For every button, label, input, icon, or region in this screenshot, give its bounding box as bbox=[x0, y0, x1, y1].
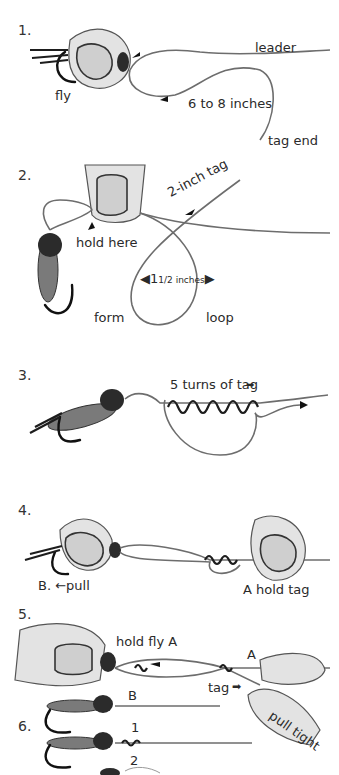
step-number: 2. bbox=[18, 167, 31, 183]
label-hold-here: hold here bbox=[76, 235, 137, 250]
step-number: 6. bbox=[18, 718, 31, 734]
label-a: A bbox=[247, 647, 256, 662]
step-5-illustration bbox=[0, 600, 339, 710]
label-pull: B. ←pull bbox=[38, 578, 90, 593]
step-number: 4. bbox=[18, 502, 31, 518]
label-2: 2 bbox=[130, 753, 138, 768]
step-6-panel: 6. 1 2 bbox=[0, 715, 339, 775]
label-fly: fly bbox=[55, 88, 71, 103]
label-1: 1 bbox=[131, 720, 139, 735]
step-6-illustration bbox=[0, 715, 339, 775]
step-1-panel: 1. fly leader 6 to 8 inches tag end bbox=[0, 0, 339, 150]
label-loop: loop bbox=[206, 310, 234, 325]
step-4-panel: 4. B. ←pull A hold tag bbox=[0, 490, 339, 600]
step-1-illustration bbox=[0, 0, 339, 150]
step-number: 3. bbox=[18, 367, 31, 383]
label-leader: leader bbox=[255, 40, 296, 55]
label-hold-fly: hold fly A bbox=[116, 634, 177, 649]
label-tag-end: tag end bbox=[268, 133, 318, 148]
label-tag: tag bbox=[208, 680, 229, 695]
label-hold-tag: A hold tag bbox=[243, 582, 310, 597]
label-loop-size: ◀11/2 inches▶ bbox=[140, 271, 215, 286]
step-3-illustration bbox=[0, 355, 339, 485]
step-3-panel: 3. 5 turns of tag ➡ bbox=[0, 355, 339, 485]
arrow-right-icon: ➡ bbox=[246, 379, 254, 390]
step-2-panel: 2. hold here 2-inch tag ◀11/2 inches▶ fo… bbox=[0, 155, 339, 355]
arrow-right-icon: ➡ bbox=[232, 680, 241, 693]
step-number: 1. bbox=[18, 22, 31, 38]
step-number: 5. bbox=[18, 606, 31, 622]
label-turns: 5 turns of tag bbox=[170, 377, 258, 392]
label-b: B bbox=[128, 688, 137, 703]
label-length: 6 to 8 inches bbox=[188, 96, 272, 111]
arrow-right-icon: ▶ bbox=[205, 271, 215, 286]
arrow-left-icon: ◀ bbox=[140, 271, 150, 286]
label-form: form bbox=[94, 310, 124, 325]
step-5-panel: 5. hold fly A A tag ➡ B pull tight bbox=[0, 600, 339, 710]
